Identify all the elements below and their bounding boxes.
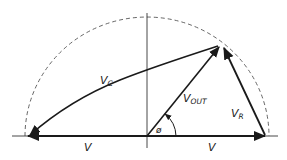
- vr-label: VR: [231, 107, 244, 121]
- vr-vector: [224, 48, 265, 135]
- phi-angle-arc: [165, 114, 176, 136]
- v-left-label: V: [84, 141, 93, 154]
- vc-label: VC: [100, 74, 114, 88]
- phi-label: ø: [155, 125, 162, 135]
- v-right-label: V: [208, 141, 217, 154]
- phasor-diagram-svg: VC VOUT VR ø V V: [0, 0, 287, 160]
- vc-vector: [30, 46, 218, 135]
- vout-label: VOUT: [183, 92, 208, 106]
- phasor-diagram: VC VOUT VR ø V V: [0, 0, 287, 160]
